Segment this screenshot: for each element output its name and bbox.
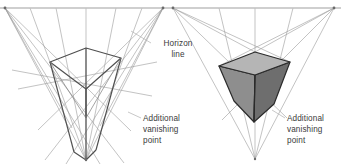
additional-vp-right-line2: vanishing [287,124,339,135]
additional-vp-left-line1: Additional [143,113,195,124]
additional-vp-right-line1: Additional [287,113,339,124]
horizon-line-label: Horizon line [154,38,202,60]
vp-left-diagram-right [162,7,165,10]
vp-left-diagram-left [4,7,7,10]
vp-left-diagram-bottom [85,159,87,161]
left-diagram-cross-construction-lines [12,62,157,96]
horizon-line-label-line2: line [154,49,202,60]
additional-vp-left-line2: vanishing [143,124,195,135]
additional-vanishing-point-label-right: Additional vanishing point [287,113,339,146]
vp-right-diagram-right [333,7,336,10]
right-diagram-box [219,52,290,122]
left-diagram-wireframe-cube [50,48,121,160]
vp-right-diagram-bottom [254,158,256,160]
box-left-face [219,66,255,122]
left-diagram [5,8,163,164]
additional-vp-right-line3: point [287,135,339,146]
left-diagram-construction-lines-from-left-vp [5,8,131,164]
perspective-diagram-figure: Horizon line Additional vanishing point … [0,0,341,164]
additional-vp-left-line3: point [143,135,195,146]
horizon-line-label-line1: Horizon [154,38,202,49]
vp-right-diagram-left [172,7,175,10]
leader-additional-vp-left [128,112,141,118]
additional-vanishing-point-label-left: Additional vanishing point [143,113,195,146]
